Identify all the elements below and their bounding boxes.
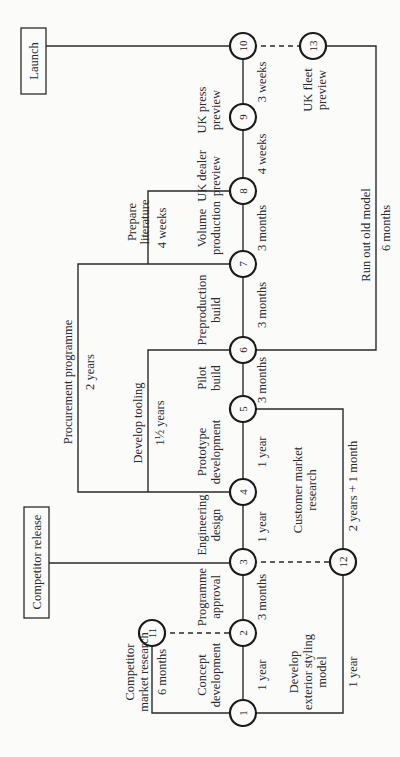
node-number: 8: [237, 188, 249, 194]
node-1: 1: [230, 700, 256, 726]
label-uk-fleet: UK fleet: [301, 68, 315, 112]
diagram-canvas: Launch Competitor release 12345678910111…: [0, 0, 400, 757]
node-7: 7: [230, 251, 256, 277]
label-uk-dealer: UK dealer: [195, 149, 209, 202]
node-4: 4: [230, 479, 256, 505]
node-number: 5: [237, 406, 249, 412]
label-1-year-engineering: 1 year: [255, 511, 269, 543]
node-8: 8: [230, 178, 256, 204]
label-market-research: market research: [137, 632, 151, 712]
node-5: 5: [230, 396, 256, 422]
label-1-year-prototype: 1 year: [255, 436, 269, 468]
label-prototype-development: development: [209, 419, 223, 484]
node-number: 9: [237, 114, 249, 120]
label-prepare: Prepare: [125, 202, 139, 241]
label-exterior-styling: exterior styling: [301, 633, 315, 710]
label-3-weeks: 3 weeks: [255, 62, 269, 103]
node-10: 10: [230, 33, 256, 59]
node-number: 10: [237, 40, 249, 52]
launch-label: Launch: [27, 42, 41, 80]
label-engineering: Engineering: [195, 494, 209, 556]
network-diagram: Launch Competitor release 12345678910111…: [0, 0, 400, 757]
label-approval: approval: [209, 575, 223, 619]
label-pilot-build: build: [209, 364, 223, 390]
node-12: 12: [330, 549, 356, 575]
label-3-months-preproduction: 3 months: [255, 282, 269, 328]
label-3-months-volume: 3 months: [255, 205, 269, 251]
label-pilot: Pilot: [195, 366, 209, 390]
competitor-release-box: Competitor release: [24, 507, 49, 618]
label-uk-press-preview: preview: [209, 90, 223, 130]
label-prototype: Prototype: [195, 427, 209, 476]
node-2: 2: [230, 620, 256, 646]
label-2-years-1-month: 2 years + 1 month: [346, 440, 360, 531]
label-concept-development: development: [209, 642, 223, 707]
label-competitor: Competitor: [123, 643, 137, 701]
node-number: 4: [237, 489, 249, 495]
label-run-out-old-model: Run out old model: [359, 188, 373, 282]
label-6-months-competitor: 6 months: [155, 649, 169, 695]
node-13: 13: [300, 33, 326, 59]
node-6: 6: [230, 337, 256, 363]
label-1-year-styling: 1 year: [346, 656, 360, 688]
node-group: 12345678910111213: [139, 33, 356, 726]
label-4-weeks-literature: 4 weeks: [155, 208, 169, 249]
label-4-weeks-dealer: 4 weeks: [255, 134, 269, 175]
label-research: research: [305, 468, 319, 510]
label-preproduction-build: build: [209, 296, 223, 322]
label-2-years: 2 years: [83, 354, 97, 390]
label-develop: Develop: [287, 651, 301, 693]
label-engineering-design: design: [209, 508, 223, 541]
label-uk-fleet-preview: preview: [315, 70, 329, 110]
label-customer-market: Customer market: [291, 446, 305, 533]
label-model: model: [315, 656, 329, 688]
launch-box: Launch: [21, 28, 46, 94]
node-number: 3: [237, 559, 249, 565]
label-literature: literature: [138, 199, 152, 245]
label-6-months-run-out: 6 months: [379, 205, 393, 251]
node-number: 7: [237, 261, 249, 267]
label-3-months-pilot: 3 months: [255, 357, 269, 403]
node-number: 2: [237, 630, 249, 636]
node-3: 3: [230, 549, 256, 575]
label-uk-dealer-preview: preview: [209, 156, 223, 196]
node-number: 1: [237, 710, 249, 716]
node-number: 13: [307, 40, 319, 52]
label-programme: Programme: [195, 567, 209, 626]
node-number: 6: [237, 347, 249, 353]
node-9: 9: [230, 104, 256, 130]
label-concept: Concept: [195, 654, 209, 696]
label-1-year-concept: 1 year: [255, 659, 269, 691]
node-number: 12: [337, 557, 349, 568]
label-1-half-years: 1½ years: [153, 400, 167, 445]
label-volume: Volume: [195, 208, 209, 247]
label-develop-tooling: Develop tooling: [131, 382, 145, 464]
label-preproduction: Preproduction: [195, 274, 209, 346]
competitor-release-label: Competitor release: [30, 514, 44, 609]
label-uk-press: UK press: [195, 86, 209, 133]
label-production: production: [209, 200, 223, 255]
label-procurement-programme: Procurement programme: [61, 319, 75, 444]
label-3-months-approval: 3 months: [255, 574, 269, 620]
